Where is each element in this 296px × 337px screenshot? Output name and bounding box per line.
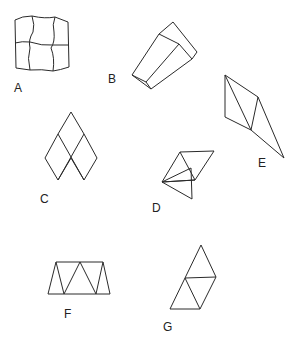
shape-g-triangles: [170, 245, 216, 309]
shape-e-parallelogram: [225, 75, 284, 158]
label-f: F: [64, 307, 71, 321]
label-a: A: [14, 81, 22, 95]
figure-canvas: A B C D E F G: [0, 0, 296, 337]
label-d: D: [152, 201, 161, 215]
label-b: B: [108, 72, 116, 86]
label-e: E: [258, 156, 266, 170]
label-g: G: [163, 320, 172, 334]
shape-f-trapezoid: [48, 262, 110, 294]
shape-d-triangles: [162, 151, 214, 199]
shape-b-folded-prism: [132, 22, 197, 89]
shape-a-warped-grid: [15, 16, 69, 71]
shape-c-rhombi: [45, 112, 97, 180]
label-c: C: [40, 192, 49, 206]
